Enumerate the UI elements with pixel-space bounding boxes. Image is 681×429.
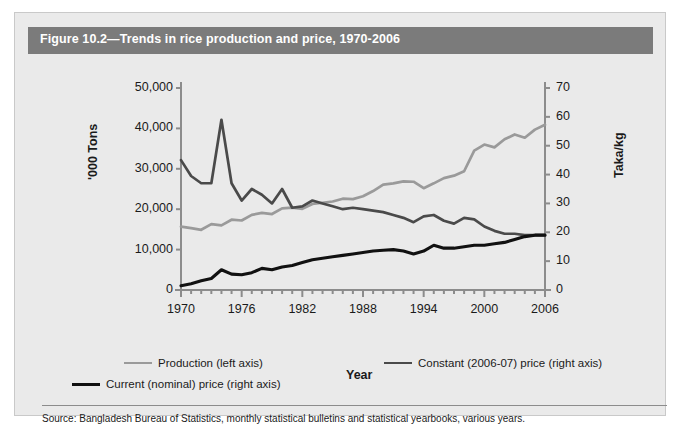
y-axis-right-tick: 40 [556,167,586,181]
y-axis-left-tick: 10,000 [115,242,173,256]
y-axis-right-tick: 10 [556,253,586,267]
y-axis-right-tick: 60 [556,109,586,123]
x-axis-tick: 1988 [337,302,389,316]
figure-title-bar: Figure 10.2—Trends in rice production an… [28,27,653,54]
legend-line-current-price [72,383,100,386]
y-axis-right-tick: 30 [556,195,586,209]
y-axis-right-tick: 20 [556,224,586,238]
figure-page: Figure 10.2—Trends in rice production an… [0,0,681,429]
series-line [181,125,545,230]
x-axis-tick: 1994 [398,302,450,316]
legend-item-constant-price: Constant (2006-07) price (right axis) [384,357,602,369]
chart-series [181,120,545,286]
y-axis-left-tick: 50,000 [115,80,173,94]
legend-item-current-price: Current (nominal) price (right axis) [72,378,280,390]
chart-axes [175,82,551,297]
y-axis-right-tick: 70 [556,80,586,94]
source-note: Source: Bangladesh Bureau of Statistics,… [42,413,525,424]
x-axis-tick: 1970 [155,302,207,316]
legend-item-production: Production (left axis) [124,357,263,369]
x-axis-tick: 2000 [458,302,510,316]
y-axis-left-tick: 20,000 [115,201,173,215]
y-axis-left-tick: 0 [115,282,173,296]
page-title: Figure 10.2—Trends in rice production an… [40,32,400,46]
y-axis-right-tick: 0 [556,282,586,296]
legend-label-constant-price: Constant (2006-07) price (right axis) [418,357,602,369]
legend-line-production [124,362,152,364]
chart-legend: Production (left axis) Constant (2006-07… [28,357,653,399]
chart-plot-area: '000 Tons Taka/kg Year 010,00020,00030,0… [28,54,653,350]
y-axis-right-tick: 50 [556,138,586,152]
x-axis-tick: 1976 [216,302,268,316]
figure-panel: Figure 10.2—Trends in rice production an… [14,12,666,416]
x-axis-tick: 1982 [276,302,328,316]
series-line [181,235,545,285]
y-axis-left-tick: 40,000 [115,120,173,134]
x-axis-tick: 2006 [519,302,571,316]
source-divider [42,405,667,406]
legend-label-current-price: Current (nominal) price (right axis) [106,378,280,390]
y-axis-left-tick: 30,000 [115,161,173,175]
legend-label-production: Production (left axis) [158,357,263,369]
legend-line-constant-price [384,362,412,364]
series-line [181,120,545,235]
